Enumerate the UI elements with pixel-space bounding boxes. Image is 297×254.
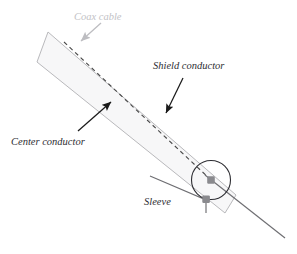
diagram-canvas [0,0,297,254]
center-conductor-marker [207,176,215,184]
label-shield-conductor: Shield conductor [153,60,224,71]
label-center-conductor: Center conductor [11,136,85,147]
coax-cable-arrow-icon [81,23,101,41]
shield-conductor-arrow-icon [166,78,183,113]
label-coax-cable: Coax cable [74,11,122,22]
coax-cable-diagram: Coax cable Shield conductor Center condu… [0,0,297,254]
label-sleeve: Sleeve [144,196,171,207]
center-conductor-path [64,42,285,238]
sleeve-marker [202,195,210,203]
